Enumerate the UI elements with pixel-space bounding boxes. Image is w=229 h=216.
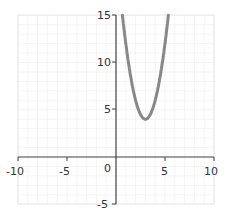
x-tick-label: -10 xyxy=(6,165,24,178)
x-tick-label: 10 xyxy=(204,165,218,178)
x-tick-label: 5 xyxy=(161,165,168,178)
y-tick-label: 15 xyxy=(97,9,111,22)
y-tick-label: -5 xyxy=(97,198,108,211)
graph: -10 -5 0 5 10 15 10 5 -5 xyxy=(0,0,229,216)
y-tick-label: 10 xyxy=(97,56,111,69)
x-tick-label: -5 xyxy=(59,165,70,178)
x-tick-label: 0 xyxy=(104,162,111,175)
y-tick-label: 5 xyxy=(104,103,111,116)
